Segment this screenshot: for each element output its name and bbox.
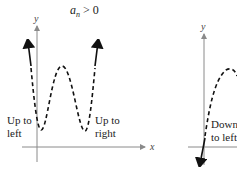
- y-axis-label-right: y: [200, 21, 206, 32]
- left-panel: an > 0 y x Up to left Up to right: [7, 3, 155, 162]
- down-to-left-label: Down to left: [211, 118, 237, 143]
- up-right-arrow-icon: [95, 42, 98, 66]
- up-to-right-label: Up to right: [95, 114, 123, 139]
- up-left-arrow-icon: [28, 42, 31, 66]
- x-axis-label: x: [149, 141, 155, 152]
- end-behavior-diagram: an > 0 y x Up to left Up to right y Down…: [0, 0, 237, 169]
- y-axis-label: y: [33, 13, 39, 24]
- right-panel: y Down to left: [188, 21, 237, 165]
- leading-coefficient-title: an > 0: [70, 3, 99, 19]
- up-to-left-label: Up to left: [7, 114, 35, 139]
- polynomial-curve-even: [31, 66, 95, 131]
